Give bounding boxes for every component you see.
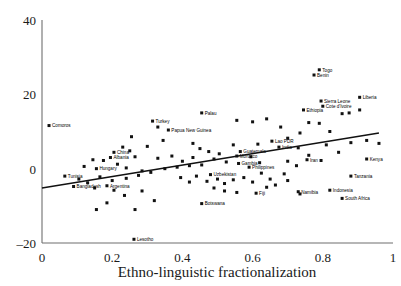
data-point [256,143,259,146]
data-point [318,122,321,125]
data-point-labeled [237,162,240,165]
data-point [200,163,203,166]
y-tick-label: –20 [16,236,37,251]
point-label: Turkey [156,119,171,124]
point-label: Kenya [370,157,383,162]
data-point [188,181,191,184]
data-point [325,143,328,146]
data-point [153,199,156,202]
data-point [283,172,286,175]
y-tick-label: 40 [23,13,36,28]
data-point [125,177,128,180]
data-point-labeled [132,238,135,241]
data-point [102,159,105,162]
data-point [218,152,221,155]
point-label: Philippines [252,165,275,170]
point-label: Tunisia [68,174,83,179]
data-point [181,160,184,163]
data-point-labeled [200,111,203,114]
data-point-labeled [209,173,212,176]
x-tick-label: 0.6 [244,250,261,265]
data-point [307,121,310,124]
data-point-labeled [313,74,316,77]
point-labels: ComorosTurkeyPalauPapua New GuineaTogoBe… [52,68,383,242]
point-label: Papua New Guinea [171,128,211,133]
data-point [341,112,344,115]
data-point [162,139,165,142]
data-point [205,180,208,183]
data-point [116,163,119,166]
data-point [83,165,86,168]
point-label: South Africa [345,196,370,201]
data-point-labeled [109,156,112,159]
data-point-labeled [255,192,258,195]
point-label: Indonesia [333,188,353,193]
data-point [216,178,219,181]
data-point-labeled [277,146,280,149]
data-point [265,117,268,120]
data-point-labeled [151,120,154,123]
data-point [258,161,261,164]
data-point [235,119,238,122]
data-point [198,147,201,150]
data-point [298,131,301,134]
data-point-labeled [48,124,51,127]
data-point [260,172,263,175]
data-point [125,166,128,169]
data-point [365,139,368,142]
point-label: Botswana [205,201,226,206]
x-tick-label: 0.8 [315,250,331,265]
data-point-labeled [95,167,98,170]
point-label: Uzbekistan [213,172,236,177]
data-point [251,120,254,123]
data-point [130,135,133,138]
point-label: Cote d'Ivoire [326,104,352,109]
data-point-labeled [318,68,321,71]
data-point [170,155,173,158]
chart-canvas: 40200–20 00.20.40.60.81 ComorosTurkeyPal… [0,0,401,286]
data-point [337,151,340,154]
point-label: Fiji [259,191,265,196]
data-point [95,208,98,211]
data-point-labeled [72,185,75,188]
data-point [232,178,235,181]
data-point-labeled [320,100,323,103]
data-point [242,176,245,179]
data-point [348,111,351,114]
data-point-labeled [167,129,170,132]
data-point [146,145,149,148]
data-point-labeled [239,150,242,153]
point-label: Lao PDR [275,139,294,144]
point-label: Hungary [99,166,117,171]
data-point [320,159,323,162]
data-point [265,186,268,189]
data-point-labeled [306,158,309,161]
data-point [123,194,126,197]
data-point [134,208,137,211]
data-point [232,143,235,146]
data-point-labeled [63,175,66,178]
data-point-labeled [365,158,368,161]
point-label: Albania [113,155,129,160]
data-point [307,154,310,157]
x-axis-title: Ethno-linguistic fractionalization [118,264,317,280]
point-label: Tanzania [354,174,373,179]
x-axis: 00.20.40.60.81 [39,243,397,265]
data-point [195,175,198,178]
x-tick-labels: 00.20.40.60.81 [39,250,397,265]
data-point-labeled [358,96,361,99]
data-point [137,174,140,177]
data-point [91,158,94,161]
point-label: Iran [310,158,318,163]
data-point [225,160,228,163]
point-label: Lesotho [137,237,154,242]
data-point [149,171,152,174]
x-tick-label: 0.4 [174,250,191,265]
point-label: Namibia [301,190,318,195]
point-label: Benin [317,73,329,78]
data-point [191,142,194,145]
data-point [235,191,238,194]
y-tick-label: 20 [23,87,36,102]
y-tick-label: 0 [30,162,37,177]
data-point [179,176,182,179]
